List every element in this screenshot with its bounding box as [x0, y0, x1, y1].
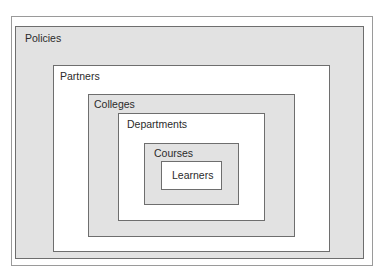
label-colleges: Colleges	[94, 98, 135, 110]
label-departments: Departments	[127, 118, 187, 130]
box-learners: Learners	[161, 161, 222, 190]
label-learners: Learners	[172, 169, 213, 181]
label-policies: Policies	[25, 32, 61, 44]
label-partners: Partners	[60, 70, 100, 82]
label-courses: Courses	[154, 147, 193, 159]
